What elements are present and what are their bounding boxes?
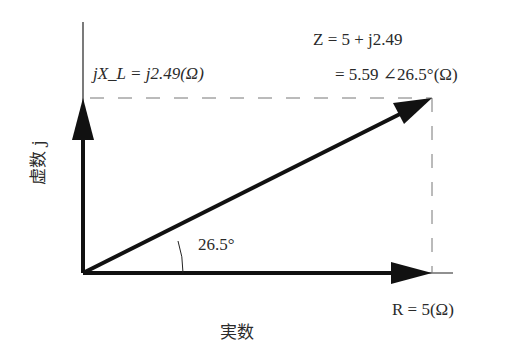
reactance-label: jX_L = j2.49(Ω) — [93, 64, 204, 84]
y-axis-label: 虚数 j — [24, 140, 49, 185]
impedance-label-line2: = 5.59 ∠26.5°(Ω) — [335, 64, 458, 85]
resistance-arrowhead-icon — [391, 262, 432, 284]
impedance-label-line1: Z = 5 + j2.49 — [313, 30, 403, 50]
x-axis-label: 実数 — [220, 318, 254, 343]
reactance-arrowhead-icon — [72, 98, 94, 140]
angle-arc — [178, 241, 183, 273]
impedance-arrowhead-icon — [393, 98, 432, 124]
angle-label: 26.5° — [198, 235, 235, 255]
resistance-label: R = 5(Ω) — [392, 300, 454, 320]
impedance-vector — [83, 114, 400, 273]
